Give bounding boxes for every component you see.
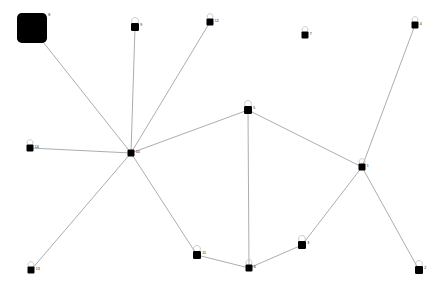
graph-self-loop [207,14,213,19]
graph-node-label-7: 7 [310,32,312,36]
node-layer [17,13,423,274]
graph-node-label-9: 9 [140,23,142,27]
graph-node-label-13: 13 [36,267,40,271]
graph-node-label-14: 14 [35,145,39,149]
graph-edge [362,167,419,270]
graph-svg: 8912745101411163213 [0,0,444,289]
graph-node-7[interactable] [302,32,309,39]
graph-node-12[interactable] [207,19,214,26]
graph-node-label-3: 3 [307,241,309,245]
node-label-layer: 8912745101411163213 [35,13,427,271]
graph-self-loop [27,140,33,145]
graph-node-2[interactable] [415,266,423,274]
graph-self-loop [132,18,139,23]
graph-edge [131,110,248,153]
graph-node-4[interactable] [412,22,419,29]
graph-self-loop [194,246,201,251]
graph-node-label-1: 1 [367,164,369,168]
graph-self-loop [28,262,34,267]
graph-edge [248,110,249,268]
self-loop-layer [27,14,422,267]
graph-edge [362,25,415,167]
graph-edge [31,153,131,270]
edge-layer [30,22,419,270]
graph-node-9[interactable] [131,23,139,31]
graph-edge [32,28,131,153]
graph-edge [131,27,135,153]
graph-edge [131,22,210,153]
graph-edge [249,245,302,268]
graph-node-8[interactable] [17,13,47,43]
graph-self-loop [302,27,308,32]
graph-node-13[interactable] [28,267,35,274]
graph-edge [131,153,197,255]
graph-node-5[interactable] [244,106,252,114]
graph-edge [248,110,362,167]
graph-edge [30,148,131,153]
graph-node-11[interactable] [193,251,201,259]
graph-node-label-4: 4 [420,22,422,26]
graph-self-loop [245,101,252,106]
graph-node-label-10: 10 [136,150,140,154]
graph-node-label-8: 8 [48,13,50,17]
graph-node-label-5: 5 [253,106,255,110]
graph-node-10[interactable] [128,150,135,157]
graph-node-label-11: 11 [202,251,206,255]
graph-node-label-12: 12 [215,19,219,23]
graph-node-1[interactable] [359,164,366,171]
graph-node-6[interactable] [246,265,253,272]
graph-node-label-6: 6 [254,265,256,269]
graph-node-3[interactable] [298,241,306,249]
network-graph-canvas: 8912745101411163213 [0,0,444,289]
graph-node-label-2: 2 [424,266,426,270]
graph-edge [302,167,362,245]
graph-self-loop [299,236,306,241]
graph-edge [197,255,249,268]
graph-node-14[interactable] [27,145,34,152]
graph-self-loop [412,17,418,22]
